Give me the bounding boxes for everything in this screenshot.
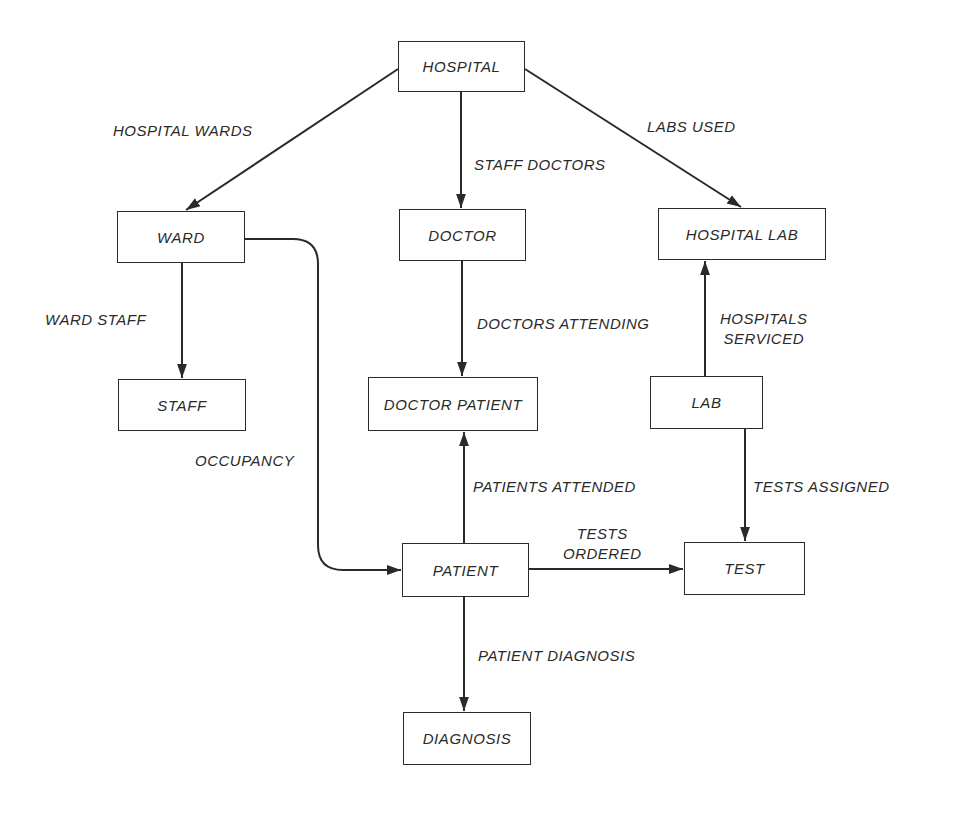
label-patient-diagnosis: PATIENT DIAGNOSIS <box>478 646 635 666</box>
node-doctor-label: DOCTOR <box>428 227 496 244</box>
node-staff: STAFF <box>118 379 246 431</box>
node-lab-label: LAB <box>691 394 721 411</box>
node-doctor: DOCTOR <box>399 209 526 261</box>
label-ward-staff: WARD STAFF <box>45 310 146 330</box>
label-doctors-attending: DOCTORS ATTENDING <box>477 314 649 334</box>
node-hospital: HOSPITAL <box>398 41 525 92</box>
node-patient-label: PATIENT <box>433 562 498 579</box>
diagram-canvas: HOSPITAL WARD DOCTOR HOSPITAL LAB STAFF … <box>0 0 953 817</box>
node-test-label: TEST <box>724 560 765 577</box>
node-ward-label: WARD <box>157 229 205 246</box>
label-hospitals-serviced: HOSPITALS SERVICED <box>720 309 808 349</box>
label-hospital-wards: HOSPITAL WARDS <box>113 121 253 141</box>
node-doctor-patient: DOCTOR PATIENT <box>368 377 538 431</box>
label-staff-doctors: STAFF DOCTORS <box>474 155 606 175</box>
label-tests-assigned: TESTS ASSIGNED <box>753 477 889 497</box>
node-test: TEST <box>684 542 805 595</box>
node-diagnosis: DIAGNOSIS <box>403 712 531 765</box>
label-patients-attended: PATIENTS ATTENDED <box>473 477 636 497</box>
label-occupancy: OCCUPANCY <box>195 451 294 471</box>
label-hospitals-serviced-line2: SERVICED <box>720 329 808 349</box>
label-hospitals-serviced-line1: HOSPITALS <box>720 309 808 329</box>
node-ward: WARD <box>117 211 245 263</box>
label-tests-ordered: TESTS ORDERED <box>563 524 642 564</box>
node-lab: LAB <box>650 376 763 429</box>
node-hospital-label: HOSPITAL <box>423 58 501 75</box>
label-tests-ordered-line1: TESTS <box>563 524 642 544</box>
node-patient: PATIENT <box>402 543 529 597</box>
node-hospital-lab: HOSPITAL LAB <box>658 208 826 260</box>
node-staff-label: STAFF <box>157 397 206 414</box>
label-tests-ordered-line2: ORDERED <box>563 544 642 564</box>
node-diagnosis-label: DIAGNOSIS <box>423 730 512 747</box>
edge-labs-used <box>525 69 741 207</box>
node-hospital-lab-label: HOSPITAL LAB <box>686 226 799 243</box>
label-labs-used: LABS USED <box>647 117 736 137</box>
node-doctor-patient-label: DOCTOR PATIENT <box>384 396 522 413</box>
